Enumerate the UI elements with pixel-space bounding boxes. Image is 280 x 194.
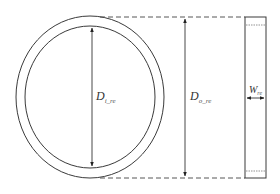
inner-circle [25, 26, 155, 168]
inner-diameter-label: Di_re [95, 89, 116, 105]
ring-side-view: Wre [245, 17, 266, 178]
outer-circle [16, 16, 164, 178]
side-view-rectangle [245, 17, 266, 178]
width-label: Wre [249, 84, 262, 96]
ring-front-view: Di_re [16, 16, 164, 178]
outer-diameter-label: Do_re [189, 89, 211, 105]
outer-diameter-dimension: Do_re [185, 19, 211, 176]
ring-dimension-diagram: Di_re Do_re Wre [0, 0, 280, 194]
